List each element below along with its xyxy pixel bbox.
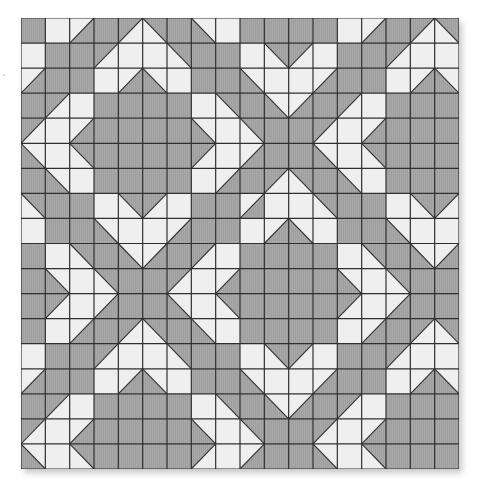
gray-square [191, 344, 215, 369]
white-square [94, 68, 118, 93]
gray-square [435, 168, 459, 193]
gray-square [21, 93, 45, 118]
gray-square [386, 444, 410, 469]
gray-square [45, 369, 69, 394]
gray-square [45, 218, 69, 243]
gray-square [386, 18, 410, 43]
gray-square [94, 18, 118, 43]
white-square [216, 444, 240, 469]
gray-square [21, 269, 45, 294]
gray-square [435, 93, 459, 118]
quilt-grid [21, 18, 459, 469]
white-square [45, 444, 69, 469]
gray-square [70, 218, 94, 243]
gray-square [143, 93, 167, 118]
gray-square [362, 68, 386, 93]
white-square [313, 218, 337, 243]
gray-square [337, 218, 361, 243]
gray-square [289, 143, 313, 168]
gray-square [435, 118, 459, 143]
white-square [70, 294, 94, 319]
gray-square [118, 143, 142, 168]
gray-square [118, 419, 142, 444]
gray-square [94, 319, 118, 344]
white-square [386, 193, 410, 218]
white-square [45, 244, 69, 269]
white-square [240, 344, 264, 369]
gray-square [191, 193, 215, 218]
gray-square [21, 18, 45, 43]
gray-square [386, 419, 410, 444]
white-square [337, 444, 361, 469]
stray-dot [3, 74, 5, 76]
gray-square [167, 18, 191, 43]
white-square [410, 218, 434, 243]
gray-square [191, 218, 215, 243]
white-square [167, 68, 191, 93]
white-square [118, 43, 142, 68]
gray-square [264, 319, 288, 344]
white-square [216, 319, 240, 344]
gray-square [70, 193, 94, 218]
gray-square [289, 244, 313, 269]
gray-square [240, 244, 264, 269]
white-square [362, 269, 386, 294]
gray-square [240, 18, 264, 43]
gray-square [264, 419, 288, 444]
gray-square [337, 193, 361, 218]
gray-square [362, 218, 386, 243]
gray-square [289, 294, 313, 319]
gray-square [70, 43, 94, 68]
white-square [21, 344, 45, 369]
gray-square [118, 394, 142, 419]
gray-square [410, 419, 434, 444]
gray-square [118, 269, 142, 294]
white-square [167, 193, 191, 218]
white-square [45, 118, 69, 143]
gray-square [362, 369, 386, 394]
gray-square [410, 143, 434, 168]
white-square [362, 93, 386, 118]
white-square [94, 369, 118, 394]
white-square [45, 18, 69, 43]
gray-square [216, 218, 240, 243]
gray-square [410, 294, 434, 319]
gray-square [264, 444, 288, 469]
white-square [216, 118, 240, 143]
gray-square [435, 394, 459, 419]
white-square [386, 68, 410, 93]
gray-square [435, 143, 459, 168]
white-square [435, 218, 459, 243]
white-square [337, 244, 361, 269]
white-square [191, 93, 215, 118]
white-square [362, 394, 386, 419]
white-square [337, 18, 361, 43]
gray-square [167, 168, 191, 193]
white-square [264, 193, 288, 218]
gray-square [94, 244, 118, 269]
gray-square [21, 294, 45, 319]
gray-square [386, 168, 410, 193]
gray-square [337, 43, 361, 68]
gray-square [143, 269, 167, 294]
white-square [45, 319, 69, 344]
gray-square [167, 93, 191, 118]
gray-square [94, 143, 118, 168]
gray-square [143, 118, 167, 143]
gray-square [143, 394, 167, 419]
white-square [70, 269, 94, 294]
white-square [167, 369, 191, 394]
white-square [191, 294, 215, 319]
white-square [216, 143, 240, 168]
gray-square [167, 319, 191, 344]
white-square [240, 43, 264, 68]
gray-square [313, 18, 337, 43]
gray-square [435, 294, 459, 319]
white-square [410, 344, 434, 369]
white-square [289, 369, 313, 394]
gray-square [216, 193, 240, 218]
gray-square [45, 344, 69, 369]
gray-square [118, 168, 142, 193]
gray-square [143, 419, 167, 444]
white-square [289, 68, 313, 93]
